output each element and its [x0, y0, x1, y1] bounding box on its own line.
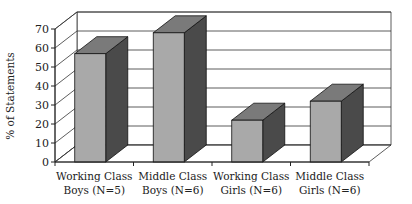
y-tick-label: 0 [42, 156, 49, 169]
bar-front [310, 101, 341, 162]
category-label: Boys (N=5) [63, 184, 125, 196]
y-tick-label: 70 [35, 23, 49, 36]
y-tick-label: 50 [35, 61, 49, 74]
bar [153, 16, 206, 162]
bar [310, 84, 363, 162]
category-label: Boys (N=6) [142, 184, 204, 196]
bar-front [75, 54, 106, 162]
y-tick-label: 30 [35, 99, 49, 112]
bar-front [153, 33, 184, 162]
bar [75, 37, 128, 162]
y-tick-label: 60 [35, 42, 49, 55]
bar-side [184, 16, 206, 162]
category-label: Working Class [213, 170, 289, 182]
x-axis: Working ClassBoys (N=5)Middle ClassBoys … [55, 162, 369, 196]
category-label: Girls (N=6) [299, 184, 361, 196]
left-wall [55, 12, 77, 162]
y-axis-title: % of Statements [4, 52, 16, 140]
bar-front [232, 120, 263, 162]
bar-side [106, 37, 128, 162]
category-label: Middle Class [138, 170, 207, 182]
y-tick-label: 10 [35, 137, 49, 150]
y-tick-label: 40 [35, 80, 49, 93]
category-label: Girls (N=6) [220, 184, 282, 196]
y-axis: 010203040506070 [35, 23, 55, 169]
category-label: Middle Class [295, 170, 364, 182]
category-label: Working Class [56, 170, 132, 182]
y-tick-label: 20 [35, 118, 49, 131]
bar-chart-3d: 010203040506070 Working ClassBoys (N=5)M… [0, 0, 412, 204]
